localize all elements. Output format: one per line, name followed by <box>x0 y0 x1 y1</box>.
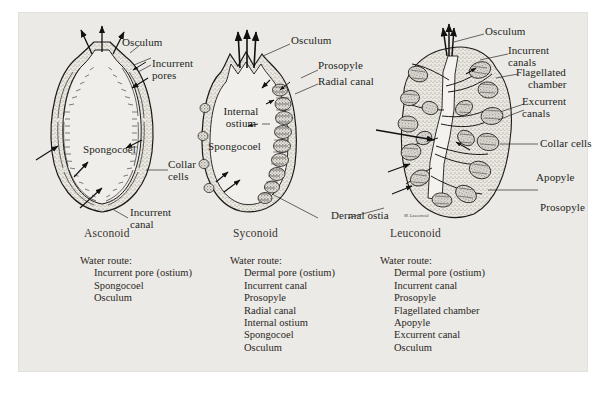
label-leuconoid-incurrent-canals: Incurrent canals <box>508 45 549 68</box>
label-syconoid-radial-canal: Radial canal <box>318 76 374 88</box>
label-asconoid-spongocoel: Spongocoel <box>83 144 136 156</box>
type-name-asconoid: Asconoid <box>84 227 130 239</box>
label-asconoid-collar-cells: Collar cells <box>168 159 230 182</box>
list-item: Internal ostium <box>244 317 335 329</box>
label-line-incurrent-3: Incurrent <box>508 44 549 56</box>
figure-panel: M. Leuconoid Osculum Incurrent pores Spo… <box>18 12 588 372</box>
label-syconoid-prosopyle: Prosopyle <box>318 60 363 72</box>
water-route-heading: Water route: <box>80 255 192 267</box>
list-item: Dermal pore (ostium) <box>244 267 335 279</box>
water-route-heading: Water route: <box>380 255 485 267</box>
list-item: Spongocoel <box>244 329 335 341</box>
list-item: Apopyle <box>394 317 485 329</box>
label-syconoid-dermal-ostia: Dermal ostia <box>331 210 389 222</box>
label-syconoid-internal-ostium: Internal ostium <box>212 106 270 129</box>
water-route-heading: Water route: <box>230 255 335 267</box>
water-route-steps: Incurrent pore (ostium) Spongocoel Oscul… <box>80 267 192 304</box>
label-asconoid-osculum: Osculum <box>122 37 162 49</box>
label-line-incurrent: Incurrent <box>152 57 193 69</box>
asconoid-illustration <box>36 26 168 218</box>
type-name-syconoid: Syconoid <box>233 227 278 239</box>
water-route-syconoid: Water route: Dermal pore (ostium) Incurr… <box>230 255 335 354</box>
list-item: Dermal pore (ostium) <box>394 267 485 279</box>
list-item: Incurrent pore (ostium) <box>94 267 192 279</box>
water-route-asconoid: Water route: Incurrent pore (ostium) Spo… <box>80 255 192 305</box>
label-line-cells: cells <box>168 170 189 182</box>
label-leuconoid-osculum: Osculum <box>485 26 525 38</box>
list-item: Spongocoel <box>94 280 192 292</box>
water-route-leuconoid: Water route: Dermal pore (ostium) Incurr… <box>380 255 485 354</box>
label-line-chamber: chamber <box>516 79 567 91</box>
label-line-incurrent-2: Incurrent <box>130 206 171 218</box>
list-item: Osculum <box>394 342 485 354</box>
label-leuconoid-excurrent-canals: Excurrent canals <box>522 96 566 119</box>
label-leuconoid-flagellated-chamber: Flagellated chamber <box>516 67 567 90</box>
list-item: Osculum <box>244 342 335 354</box>
label-leuconoid-prosopyle: Prosopyle <box>540 202 585 214</box>
label-line-canals-2: canals <box>522 107 550 119</box>
list-item: Radial canal <box>244 305 335 317</box>
list-item: Prosopyle <box>394 292 485 304</box>
label-line-internal: Internal <box>223 105 258 117</box>
label-line-pores: pores <box>152 69 176 81</box>
label-line-excurrent: Excurrent <box>522 95 566 107</box>
list-item: Osculum <box>94 292 192 304</box>
label-leuconoid-apopyle: Apopyle <box>536 172 575 184</box>
label-leuconoid-collar-cells: Collar cells <box>540 138 592 150</box>
list-item: Flagellated chamber <box>394 305 485 317</box>
list-item: Incurrent canal <box>394 280 485 292</box>
label-line-ostium: ostium <box>226 117 257 129</box>
list-item: Prosopyle <box>244 292 335 304</box>
label-line-collar: Collar <box>168 158 196 170</box>
water-route-steps: Dermal pore (ostium) Incurrent canal Pro… <box>230 267 335 354</box>
label-asconoid-incurrent-pores: Incurrent pores <box>152 58 214 81</box>
water-route-steps: Dermal pore (ostium) Incurrent canal Pro… <box>380 267 485 354</box>
label-syconoid-spongocoel: Spongocoel <box>208 141 261 153</box>
list-item: Excurrent canal <box>394 329 485 341</box>
label-asconoid-incurrent-canal: Incurrent canal <box>130 207 192 230</box>
list-item: Incurrent canal <box>244 280 335 292</box>
artist-signature: M. Leuconoid <box>403 213 429 218</box>
label-line-flagellated: Flagellated <box>516 66 566 78</box>
label-line-canal: canal <box>130 218 154 230</box>
label-syconoid-osculum: Osculum <box>291 35 331 47</box>
type-name-leuconoid: Leuconoid <box>390 227 441 239</box>
